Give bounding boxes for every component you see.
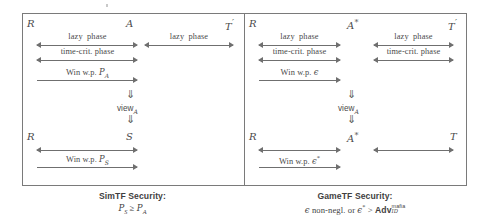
- double-down-arrow-icon: ⇓: [347, 113, 356, 126]
- party-label-r-top-left: R: [27, 18, 35, 29]
- arrow-lazy-phase-left-2: [145, 42, 233, 49]
- arrow-label-lazy-phase-left-1: lazy phase: [35, 32, 140, 41]
- label-timecrit: time-crit.: [273, 47, 305, 56]
- adv-subscript-id: ID: [392, 209, 406, 215]
- arrow-shaft: [259, 150, 340, 151]
- view-text: view: [338, 104, 354, 113]
- label-phase: phase: [299, 32, 319, 41]
- caption-title-gametf: GameTF Security:: [244, 191, 466, 201]
- label-win-wp: Win w.p.: [66, 68, 97, 77]
- arrow-label-win-wp-epsilon: Win w.p. ϵ: [257, 67, 342, 77]
- party-symbol: R: [27, 131, 35, 142]
- party-label-tprime-top-left: T′: [225, 18, 234, 32]
- label-phase: phase: [95, 47, 115, 56]
- arrow-head-right: [449, 147, 454, 153]
- label-phase: phase: [421, 47, 441, 56]
- caption-title-simtf: SimTF Security:: [22, 191, 243, 201]
- cond-epsilon: ϵ: [305, 205, 310, 215]
- party-symbol: T: [225, 21, 232, 32]
- implication-arrow-top-right: ⇓: [347, 89, 356, 100]
- implication-arrow-bottom-right: ⇓: [347, 114, 356, 125]
- arrow-shaft: [374, 150, 453, 151]
- arrow-shaft: [37, 150, 137, 151]
- arrow-shaft: [374, 45, 453, 46]
- arrow-win-wp-epsilon: [259, 77, 340, 84]
- arrow-head-left: [36, 147, 41, 153]
- arrow-head-right: [133, 164, 138, 170]
- arrow-head-right: [133, 77, 138, 83]
- arrow-shaft: [37, 60, 137, 61]
- party-symbol: A: [126, 18, 133, 29]
- arrow-shaft: [37, 167, 137, 168]
- arrow-shaft: [374, 60, 453, 61]
- label-lazy: lazy: [394, 32, 408, 41]
- party-symbol: R: [249, 131, 257, 142]
- epsilon-var: ϵ: [314, 67, 319, 77]
- arrow-label-lazy-phase-right-1: lazy phase: [257, 32, 342, 41]
- arrow-head-right: [133, 147, 138, 153]
- arrow-head-right: [229, 42, 234, 48]
- caption-condition-gametf: ϵ non-negl. or ϵ* > AdvmafiaID: [244, 203, 466, 215]
- party-symbol: T: [448, 21, 455, 32]
- scan-speck: [106, 4, 108, 7]
- arrow-head-left: [258, 147, 263, 153]
- label-phase: phase: [413, 32, 433, 41]
- arrow-bidir-bottom-right-1: [259, 147, 340, 154]
- arrow-shaft: [37, 80, 137, 81]
- arrow-label-lazy-phase-right-2: lazy phase: [372, 32, 455, 41]
- label-lazy: lazy: [170, 32, 184, 41]
- arrow-label-lazy-phase-left-2: lazy phase: [143, 32, 235, 41]
- party-label-r-top-right: R: [249, 18, 257, 29]
- star-mark: *: [354, 18, 358, 27]
- arrow-label-timecrit-phase-right-1: time-crit. phase: [257, 47, 342, 56]
- arrow-shaft: [259, 60, 340, 61]
- arrow-timecrit-phase-left-1: [37, 57, 137, 64]
- party-symbol: R: [249, 18, 257, 29]
- arrow-timecrit-phase-right-2: [374, 57, 453, 64]
- star-mark: *: [317, 154, 320, 161]
- label-timecrit: time-crit.: [387, 47, 419, 56]
- cond-geq: ≥: [130, 203, 135, 213]
- arrow-head-right: [336, 147, 341, 153]
- arrow-win-wp-ps: [37, 164, 137, 171]
- arrow-bidir-bottom-right-2: [374, 147, 453, 154]
- double-down-arrow-icon: ⇓: [126, 88, 135, 101]
- diagram-frame: R A T′ lazy phase time-crit. phase: [22, 13, 467, 186]
- view-text: view: [117, 104, 133, 113]
- caption-gametf: GameTF Security: ϵ non-negl. or ϵ* > Adv…: [244, 191, 466, 215]
- arrow-head-right: [449, 57, 454, 63]
- prime-mark: ′: [232, 18, 234, 28]
- double-down-arrow-icon: ⇓: [347, 88, 356, 101]
- implication-arrow-top-left: ⇓: [126, 89, 135, 100]
- label-win-wp: Win w.p.: [281, 68, 312, 77]
- arrow-label-timecrit-phase-left-1: time-crit. phase: [35, 47, 140, 56]
- star-mark: *: [362, 203, 365, 210]
- cond-sub-s: S: [124, 208, 127, 215]
- party-label-a-top-left: A: [126, 18, 133, 29]
- caption-simtf: SimTF Security: PS ≥ PA: [22, 191, 243, 215]
- arrow-shaft: [259, 80, 340, 81]
- label-lazy: lazy: [280, 32, 294, 41]
- party-label-r-bottom-right: R: [249, 131, 257, 142]
- figure-root: R A T′ lazy phase time-crit. phase: [0, 0, 477, 224]
- star-mark: *: [354, 131, 358, 140]
- arrow-head-left: [373, 147, 378, 153]
- party-label-astar-top-right: A*: [347, 18, 359, 31]
- arrow-shaft: [259, 45, 340, 46]
- panel-simtf: R A T′ lazy phase time-crit. phase: [23, 14, 244, 185]
- arrow-shaft: [37, 45, 137, 46]
- adv-term: Adv: [375, 205, 392, 215]
- arrow-shaft: [259, 167, 340, 168]
- arrow-head-left: [144, 42, 149, 48]
- party-label-s-bottom-left: S: [126, 131, 133, 142]
- arrow-head-left: [258, 57, 263, 63]
- label-timecrit: time-crit.: [61, 47, 93, 56]
- arrow-timecrit-phase-right-1: [259, 57, 340, 64]
- arrow-head-right: [336, 57, 341, 63]
- label-lazy: lazy: [68, 32, 82, 41]
- arrow-bidir-bottom-left: [37, 147, 137, 154]
- double-down-arrow-icon: ⇓: [126, 113, 135, 126]
- panel-gametf: R A* T′ lazy phase time-crit. phase: [245, 14, 467, 185]
- arrow-head-left: [36, 57, 41, 63]
- implication-arrow-bottom-left: ⇓: [126, 114, 135, 125]
